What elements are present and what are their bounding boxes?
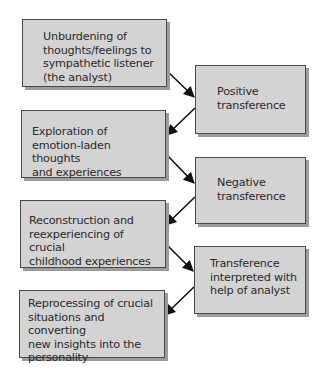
step-exploration-label: Exploration of emotion-laden thoughts an… bbox=[32, 125, 161, 179]
arrow-n3-to-n4 bbox=[165, 153, 194, 183]
step-reprocessing-label: Reprocessing of crucial situations and c… bbox=[28, 297, 160, 365]
step-reconstruction-label: Reconstruction and reexperiencing of cru… bbox=[29, 214, 161, 268]
step-reprocessing-box: Reprocessing of crucial situations and c… bbox=[19, 290, 165, 358]
step-exploration-box: Exploration of emotion-laden thoughts an… bbox=[21, 110, 166, 178]
positive-transference-box: Positive transference bbox=[195, 65, 306, 134]
arrow-n5-to-n6 bbox=[165, 243, 193, 271]
transference-interpreted-box: Transference interpreted with help of an… bbox=[194, 246, 306, 314]
step-unburdening-label: Unburdening of thoughts/feelings to symp… bbox=[43, 30, 160, 84]
step-reconstruction-box: Reconstruction and reexperiencing of cru… bbox=[20, 200, 166, 268]
arrow-n4-to-n5 bbox=[166, 197, 195, 225]
negative-transference-label: Negative transference bbox=[217, 176, 299, 203]
negative-transference-box: Negative transference bbox=[195, 157, 306, 224]
arrow-n1-to-n2 bbox=[166, 70, 194, 97]
step-unburdening-box: Unburdening of thoughts/feelings to symp… bbox=[22, 19, 167, 87]
arrow-n6-to-n7 bbox=[165, 287, 194, 315]
arrow-n2-to-n3 bbox=[167, 108, 195, 135]
transference-interpreted-label: Transference interpreted with help of an… bbox=[210, 257, 301, 298]
positive-transference-label: Positive transference bbox=[217, 85, 299, 112]
